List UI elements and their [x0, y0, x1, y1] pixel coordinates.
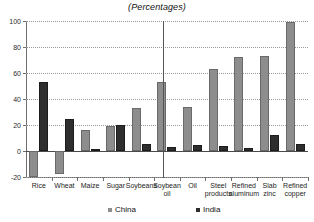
x-tick-mark — [129, 177, 130, 181]
bar-india — [219, 146, 228, 151]
bar-india — [65, 119, 74, 151]
gridline — [26, 177, 308, 178]
y-tick-label: 40 — [13, 96, 21, 103]
bar-china — [183, 107, 192, 151]
x-tick-mark — [154, 177, 155, 181]
bar-group — [180, 21, 206, 177]
legend-label: China — [115, 205, 136, 214]
x-tick-mark — [52, 177, 53, 181]
bar-china — [286, 22, 295, 151]
y-tick-label: 100 — [9, 18, 21, 25]
x-tick-mark — [282, 177, 283, 181]
x-tick-mark — [231, 177, 232, 181]
bar-india — [142, 144, 151, 151]
bar-india — [270, 135, 279, 151]
bar-group — [154, 21, 180, 177]
chart-title: (Percentages) — [0, 2, 314, 12]
y-tick-label: -20 — [11, 174, 21, 181]
legend-label: India — [203, 205, 220, 214]
bar-india — [116, 125, 125, 151]
bar-china — [81, 130, 90, 151]
legend-entry-china[interactable]: China — [108, 205, 136, 214]
bar-china — [55, 151, 64, 174]
bar-india — [244, 148, 253, 151]
y-tick-label: 60 — [13, 70, 21, 77]
legend-swatch-icon — [196, 208, 200, 212]
bar-china — [106, 126, 115, 151]
bar-group — [282, 21, 308, 177]
bar-china — [209, 69, 218, 151]
plot-area — [26, 21, 308, 177]
group-divider-line — [163, 21, 164, 178]
y-axis-labels: -20020406080100 — [0, 21, 24, 177]
bar-group — [231, 21, 257, 177]
bar-china — [157, 82, 166, 151]
bar-group — [103, 21, 129, 177]
y-tick-label: 80 — [13, 44, 21, 51]
bar-group — [26, 21, 52, 177]
x-tick-mark — [77, 177, 78, 181]
bar-india — [91, 149, 100, 151]
bar-group — [257, 21, 283, 177]
x-tick-mark — [103, 177, 104, 181]
bar-group — [77, 21, 103, 177]
legend-swatch-icon — [108, 208, 112, 212]
bar-china — [29, 151, 38, 177]
bar-india — [39, 82, 48, 151]
bar-india — [167, 147, 176, 151]
legend-entry-india[interactable]: India — [196, 205, 220, 214]
bar-group — [205, 21, 231, 177]
y-tick-label: 20 — [13, 122, 21, 129]
x-tick-mark — [180, 177, 181, 181]
x-tick-mark — [205, 177, 206, 181]
bar-india — [296, 144, 305, 151]
x-tick-label: Refined copper — [278, 182, 312, 197]
bar-india — [193, 145, 202, 151]
bar-china — [260, 56, 269, 151]
bar-group — [129, 21, 155, 177]
x-tick-mark — [257, 177, 258, 181]
y-tick-mark — [23, 177, 26, 178]
bar-group — [52, 21, 78, 177]
chart-legend: ChinaIndia — [0, 205, 314, 219]
x-tick-mark — [308, 177, 309, 181]
bar-china — [234, 57, 243, 151]
bar-china — [132, 108, 141, 151]
y-tick-label: 0 — [17, 148, 21, 155]
